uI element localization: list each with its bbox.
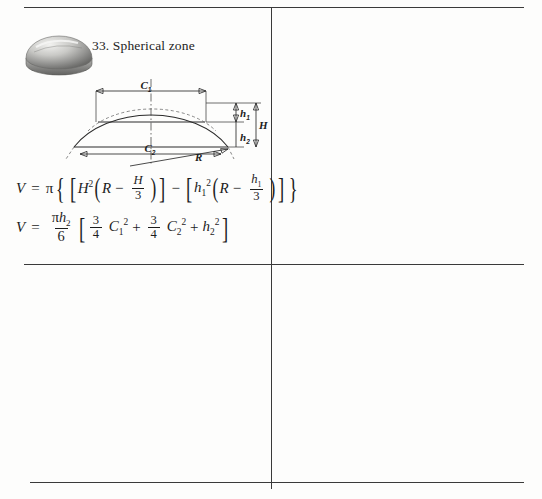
svg-text:C1: C1 [140, 79, 151, 93]
item-33-formula-1: V=π { [ H2 ( R− H3 ) ] − [ h12 ( R− h13 … [16, 173, 301, 203]
svg-text:H: H [258, 119, 268, 131]
divider-bottom [30, 482, 524, 483]
item-35-torus: 35. Torus D [0, 264, 271, 482]
handbook-page: 33. Spherical zone C1 [0, 0, 542, 499]
item-33-formula-2: V= πh2 6 [ 34 C12 + 34 C22 + h22 ] [16, 210, 301, 245]
item-36-hollow-torus: 36. Hollow torus [271, 264, 542, 482]
item-34-conical-hole: 34. Conical hole through spherical shell [271, 7, 542, 264]
item-33-spherical-zone: 33. Spherical zone C1 [0, 7, 271, 264]
svg-text:C2: C2 [144, 142, 155, 156]
svg-text:R: R [194, 151, 202, 163]
svg-text:h1: h1 [240, 107, 250, 121]
item-33-formulas: V=π { [ H2 ( R− H3 ) ] − [ h12 ( R− h13 … [16, 173, 301, 245]
spherical-zone-cross-section: C1 C2 R h1 h2 [58, 69, 266, 169]
item-33-heading: 33. Spherical zone [92, 37, 195, 55]
svg-text:h2: h2 [240, 131, 250, 145]
